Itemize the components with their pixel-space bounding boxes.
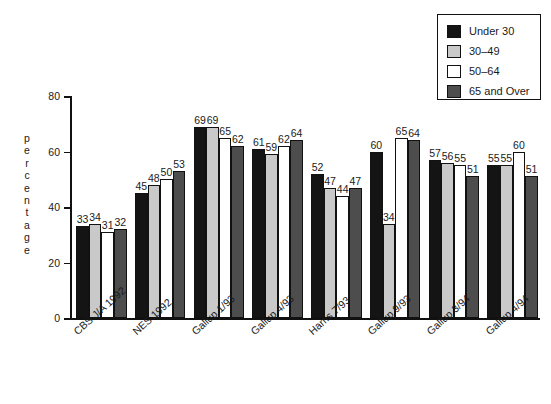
bar-value-label: 47 [345, 176, 366, 187]
bar [311, 174, 324, 318]
bar-group: 69696562 [194, 96, 244, 318]
y-axis-title-char: c [20, 169, 34, 181]
y-axis-tick-label: 0 [36, 312, 60, 324]
legend-item-label: Under 30 [469, 25, 514, 38]
bar [408, 140, 421, 318]
bar-group: 55556051 [487, 96, 537, 318]
bar [324, 188, 337, 318]
y-axis-title-char: p [20, 132, 34, 144]
bar [76, 226, 89, 318]
bar-group: 60346564 [370, 96, 420, 318]
plot-area: 3334313245485053696965626159626452474447… [70, 96, 540, 318]
y-axis-tick-label: 80 [36, 90, 60, 102]
y-axis-title-char: n [20, 194, 34, 206]
y-axis-title-char: g [20, 231, 34, 243]
bar [487, 165, 500, 318]
bar-value-label: 64 [286, 128, 307, 139]
legend-swatch-icon [447, 25, 461, 38]
y-axis-title-char: t [20, 206, 34, 218]
bar-group: 61596264 [252, 96, 302, 318]
bar [114, 229, 127, 318]
bar [148, 185, 161, 318]
legend-item: 30–49 [447, 42, 540, 61]
y-axis-title-char: r [20, 157, 34, 169]
bar-group: 57565551 [429, 96, 479, 318]
bar-value-label: 51 [462, 164, 483, 175]
bar-value-label: 60 [509, 140, 530, 151]
bar-value-label: 53 [169, 159, 190, 170]
legend-item-label: 50–64 [469, 65, 500, 78]
bar [252, 149, 265, 318]
bar-value-label: 51 [521, 164, 542, 175]
y-axis-title-char: e [20, 244, 34, 256]
bar-value-label: 64 [404, 128, 425, 139]
bar-group: 52474447 [311, 96, 361, 318]
bar [370, 152, 383, 319]
legend-swatch-icon [447, 45, 461, 58]
legend-item-label: 30–49 [469, 45, 500, 58]
bar [206, 127, 219, 318]
y-axis-tick-label: 20 [36, 257, 60, 269]
y-axis-title-char: e [20, 182, 34, 194]
bar [135, 193, 148, 318]
y-axis-title-char: e [20, 144, 34, 156]
bar [173, 171, 186, 318]
bar [429, 160, 442, 318]
chart-figure: Under 3030–4950–6465 and Over percentage… [0, 0, 551, 404]
bar-value-label: 69 [202, 115, 223, 126]
bar [441, 163, 454, 318]
bar [395, 138, 408, 318]
bar-value-label: 32 [110, 217, 131, 228]
bar [219, 138, 232, 318]
bar [500, 165, 513, 318]
bar-value-label: 60 [366, 140, 387, 151]
y-axis-tick-label: 60 [36, 146, 60, 158]
y-axis-tick [64, 318, 70, 320]
bar [231, 146, 244, 318]
bar-value-label: 62 [227, 134, 248, 145]
bar-group: 45485053 [135, 96, 185, 318]
bar [194, 127, 207, 318]
legend-item: Under 30 [447, 22, 540, 41]
legend-item: 50–64 [447, 62, 540, 81]
y-axis-title: percentage [20, 132, 34, 256]
chart-legend: Under 3030–4950–6465 and Over [437, 14, 541, 100]
y-axis-tick-label: 40 [36, 201, 60, 213]
bar [349, 188, 362, 318]
bar [265, 154, 278, 318]
legend-swatch-icon [447, 65, 461, 78]
bar [290, 140, 303, 318]
y-axis-title-char: a [20, 219, 34, 231]
bar-value-label: 52 [307, 162, 328, 173]
